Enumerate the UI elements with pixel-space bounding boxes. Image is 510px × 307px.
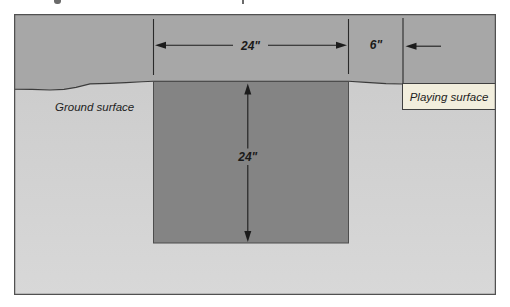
ground-surface-label: Ground surface [55, 101, 134, 113]
dim-width-label: 24" [240, 39, 260, 53]
cross-section-diagram: 24" 6" 24" Ground surface Playing surfac… [14, 14, 496, 295]
dim-depth-label: 24" [237, 150, 257, 164]
playing-surface-label: Playing surface [410, 91, 489, 103]
cropped-caption-fragment [54, 0, 61, 4]
figure-page: 24" 6" 24" Ground surface Playing surfac… [0, 0, 510, 307]
dim-offset-label: 6" [370, 38, 383, 52]
cropped-caption-fragment [242, 0, 244, 4]
